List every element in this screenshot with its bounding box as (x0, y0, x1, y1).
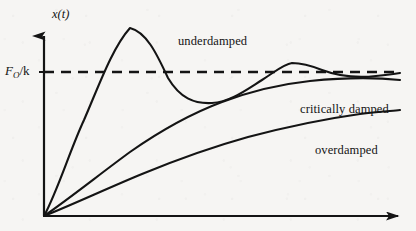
curve-label-underdamped: underdamped (178, 35, 247, 48)
threshold-label: FO/k (5, 64, 30, 80)
curve-underdamped (44, 28, 400, 216)
curve-label-critically-damped: critically damped (300, 103, 389, 116)
threshold-suffix: /k (19, 63, 29, 78)
curve-overdamped (44, 110, 400, 216)
y-axis-label: x(t) (52, 8, 69, 21)
threshold-symbol: F (5, 63, 13, 78)
curve-label-overdamped: overdamped (315, 144, 378, 157)
damped-response-figure: x(t) FO/k underdamped critically damped … (0, 0, 416, 231)
